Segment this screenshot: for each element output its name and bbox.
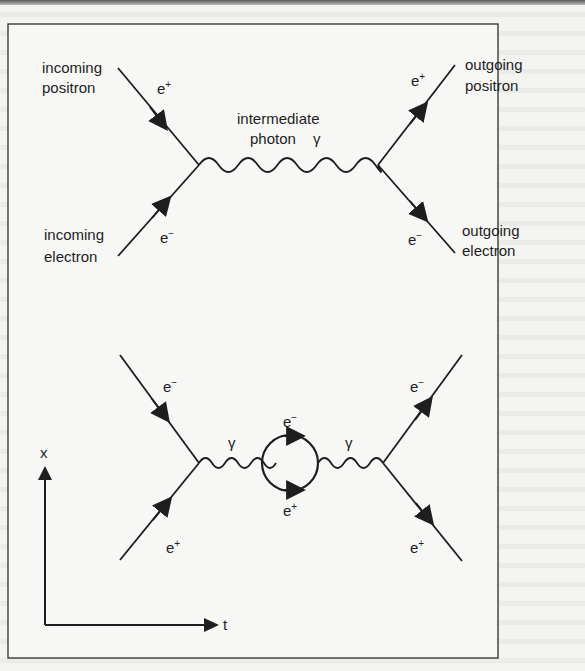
outgoing-electron-label: electron	[462, 242, 515, 259]
gamma-symbol: γ	[345, 434, 353, 451]
photon-label: intermediate	[237, 110, 320, 127]
incoming-positron-label: positron	[42, 79, 95, 96]
feynman-diagram-figure: incoming positron e+ incoming electron e…	[0, 0, 585, 671]
gamma-symbol: γ	[228, 434, 236, 451]
incoming-electron-label: incoming	[44, 226, 104, 243]
incoming-positron-label: incoming	[42, 59, 102, 76]
outgoing-positron-label: positron	[465, 77, 518, 94]
outgoing-electron-label: outgoing	[462, 222, 520, 239]
incoming-electron-label: electron	[44, 248, 97, 265]
outgoing-positron-label: outgoing	[465, 56, 523, 73]
x-axis-label: x	[40, 444, 48, 461]
photon-label: photon	[250, 130, 296, 147]
gamma-symbol: γ	[313, 130, 321, 147]
